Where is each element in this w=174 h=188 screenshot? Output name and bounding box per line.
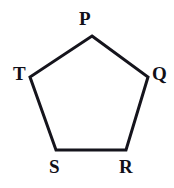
vertex-label-t: T [13,64,26,83]
vertex-label-r: R [119,157,133,176]
vertex-label-p: P [79,9,91,28]
vertex-label-q: Q [152,64,167,83]
vertex-label-s: S [49,157,60,176]
pentagon-diagram: P Q R S T [0,0,174,188]
